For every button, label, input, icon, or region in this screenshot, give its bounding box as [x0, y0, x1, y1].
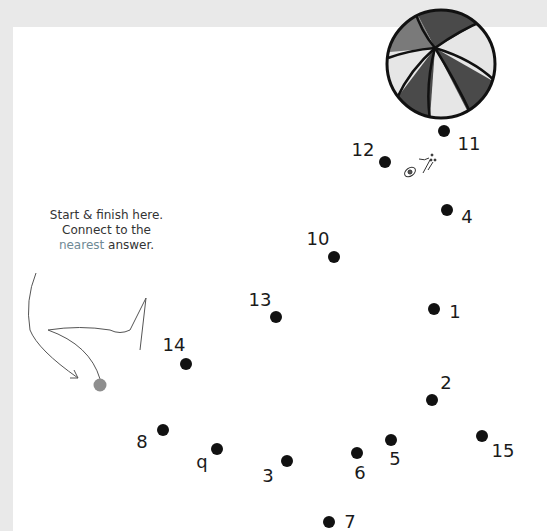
dot-10[interactable]	[328, 251, 340, 263]
dot-14[interactable]	[180, 358, 192, 370]
dot-15[interactable]	[476, 430, 488, 442]
instructions-text: Start & finish here. Connect to the near…	[34, 208, 179, 253]
dot-label-14: 14	[163, 336, 186, 354]
dot-5[interactable]	[385, 434, 397, 446]
dot-label-11: 11	[458, 135, 481, 153]
dot-label-9: q	[196, 453, 207, 471]
arrow-icon	[28, 273, 78, 378]
dot-1[interactable]	[428, 303, 440, 315]
dot-9[interactable]	[211, 443, 223, 455]
dot-label-12: 12	[352, 141, 375, 159]
dot-label-1: 1	[449, 303, 460, 321]
dot-13[interactable]	[270, 311, 282, 323]
instructions-line-1: Start & finish here.	[34, 208, 179, 223]
dot-label-7: 7	[344, 513, 355, 531]
instructions-line-2: Connect to the	[34, 223, 179, 238]
highlight-word: nearest	[59, 238, 104, 252]
dot-3[interactable]	[281, 455, 293, 467]
start-dot[interactable]	[94, 379, 107, 392]
dot-label-5: 5	[389, 450, 400, 468]
dot-label-10: 10	[307, 230, 330, 248]
dot-label-6: 6	[354, 464, 365, 482]
dot-label-4: 4	[461, 208, 472, 226]
dot-11[interactable]	[438, 125, 450, 137]
dot-2[interactable]	[426, 394, 438, 406]
dot-label-15: 15	[492, 442, 515, 460]
dot-4[interactable]	[441, 204, 453, 216]
instructions-line-3: nearest answer.	[34, 238, 179, 253]
dot-12[interactable]	[379, 156, 391, 168]
dot-label-8: 8	[136, 433, 147, 451]
sparkle-doodle-icon	[403, 154, 436, 179]
dot-label-3: 3	[262, 467, 273, 485]
dot-6[interactable]	[351, 447, 363, 459]
dot-8[interactable]	[157, 424, 169, 436]
dot-7[interactable]	[323, 516, 335, 528]
artwork	[0, 0, 547, 531]
beach-ball-icon	[387, 7, 498, 120]
instructions-line-3-rest: answer.	[104, 238, 154, 252]
dot-label-13: 13	[249, 291, 272, 309]
dot-label-2: 2	[440, 374, 451, 392]
